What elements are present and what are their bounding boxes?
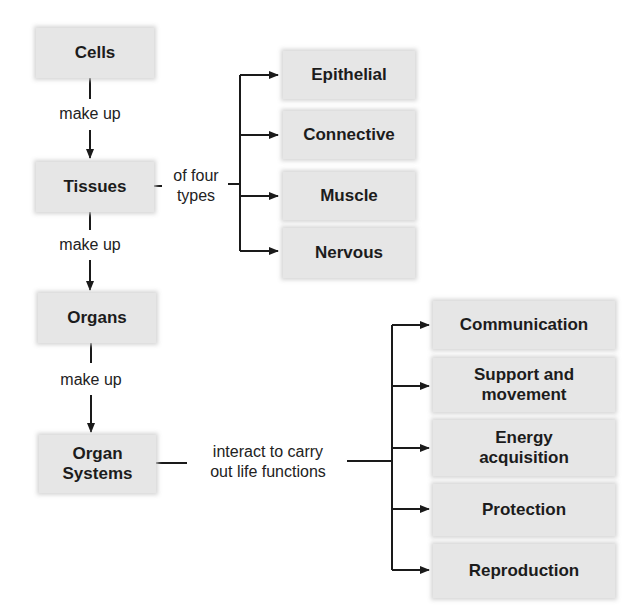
of-four-types-label: of four types (164, 166, 228, 206)
of-four-types-line2: types (164, 186, 228, 206)
connective-label: Connective (303, 125, 395, 145)
make-up-label-1: make up (40, 104, 140, 124)
organ-systems-label-line2: Systems (63, 464, 133, 484)
organs-label: Organs (67, 308, 127, 328)
organ-systems-box: Organ Systems (39, 435, 156, 493)
energy-acquisition-line1: Energy (495, 428, 553, 448)
reproduction-box: Reproduction (433, 544, 615, 598)
cells-box: Cells (36, 28, 154, 78)
muscle-box: Muscle (283, 172, 415, 220)
tissues-box: Tissues (36, 162, 154, 212)
of-four-types-line1: of four (164, 166, 228, 186)
cells-label: Cells (75, 43, 116, 63)
organ-systems-label-line1: Organ (72, 444, 122, 464)
life-functions-connector-label: interact to carry out life functions (190, 442, 346, 482)
communication-label: Communication (460, 315, 588, 335)
muscle-label: Muscle (320, 186, 378, 206)
nervous-box: Nervous (283, 228, 415, 278)
energy-acquisition-line2: acquisition (479, 448, 569, 468)
protection-box: Protection (433, 484, 615, 536)
reproduction-label: Reproduction (469, 561, 580, 581)
nervous-label: Nervous (315, 243, 383, 263)
tissues-label: Tissues (63, 177, 126, 197)
organs-box: Organs (38, 293, 156, 343)
support-movement-line1: Support and (474, 365, 574, 385)
epithelial-label: Epithelial (311, 65, 387, 85)
connective-box: Connective (283, 111, 415, 159)
life-functions-connector-line1: interact to carry (190, 442, 346, 462)
life-functions-connector-line2: out life functions (190, 462, 346, 482)
protection-label: Protection (482, 500, 566, 520)
make-up-label-3: make up (41, 370, 141, 390)
energy-acquisition-box: Energy acquisition (433, 420, 615, 476)
support-movement-box: Support and movement (433, 358, 615, 412)
make-up-label-2: make up (40, 235, 140, 255)
support-movement-line2: movement (481, 385, 566, 405)
communication-box: Communication (433, 301, 615, 349)
epithelial-box: Epithelial (283, 51, 415, 99)
